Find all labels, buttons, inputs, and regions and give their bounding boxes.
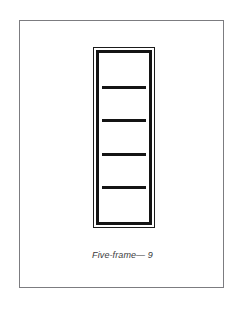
figure-card: Five-frame— 9: [19, 20, 224, 288]
frame-pane-3: [102, 122, 146, 155]
frame-pane-5: [102, 189, 146, 219]
five-frame-diagram: Five-frame— 9: [20, 21, 225, 289]
frame-pane-2: [102, 89, 146, 122]
page-canvas: Five-frame— 9: [0, 0, 241, 311]
frame-inner-border: [96, 50, 152, 225]
pane-stack: [102, 56, 146, 219]
figure-caption: Five-frame— 9: [20, 249, 225, 261]
frame-pane-1: [102, 56, 146, 89]
frame-outer-border: [93, 47, 155, 228]
frame-pane-4: [102, 156, 146, 189]
